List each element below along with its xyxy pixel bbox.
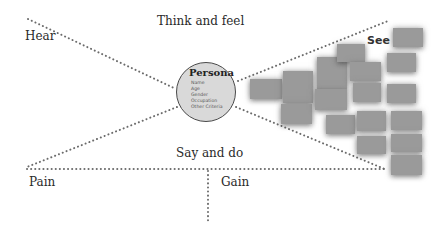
see-card [357, 111, 386, 131]
quadrant-label-think-and-feel: Think and feel [157, 14, 244, 28]
quadrant-label-see: See [367, 34, 390, 48]
see-card [391, 134, 422, 152]
persona-attribute-list: Name Age Gender Occupation Other Criteri… [191, 80, 222, 110]
see-card [353, 83, 381, 102]
see-card [387, 84, 416, 103]
section-label-gain: Gain [221, 175, 249, 189]
see-card [281, 104, 312, 124]
quadrant-label-hear: Hear [25, 29, 55, 43]
section-label-pain: Pain [29, 175, 55, 189]
see-card [337, 44, 365, 62]
quadrant-label-say-and-do: Say and do [176, 146, 243, 160]
persona-circle: Persona Name Age Gender Occupation Other… [176, 62, 236, 122]
line-persona-to-pain [27, 107, 177, 167]
see-card [393, 28, 423, 47]
see-card [350, 62, 381, 81]
persona-title: Persona [189, 67, 234, 79]
see-card [283, 71, 313, 103]
see-card [391, 111, 422, 130]
see-card [387, 53, 416, 72]
empathy-map-diagram: Hear Think and feel See Say and do Pain … [0, 0, 444, 238]
see-card [357, 136, 386, 154]
see-card [391, 155, 422, 175]
persona-attribute-other-criteria: Other Criteria [191, 104, 222, 110]
see-card [250, 79, 282, 99]
see-card [315, 89, 347, 110]
see-card [326, 115, 355, 134]
